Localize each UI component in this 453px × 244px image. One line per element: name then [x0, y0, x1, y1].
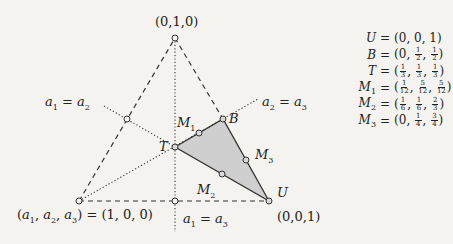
label-B: B [229, 112, 239, 125]
coordinates-legend: U=(0, 0, 1)B=(0, 12, 12)T=(13, 13, 13)M1… [338, 30, 451, 129]
legend-row-m1: M1=(112, 512, 512) [338, 80, 451, 97]
mid-left-point [124, 116, 130, 122]
mid-bottom-point [172, 198, 178, 204]
label-a2-eq-a3: a2 = a3 [262, 95, 307, 112]
legend-row-t: T=(13, 13, 13) [338, 63, 451, 80]
label-M2: M2 [197, 183, 215, 200]
label-a1-eq-a2: a1 = a2 [45, 95, 90, 112]
legend-coordinates: (0, 0, 1) [394, 31, 442, 45]
label-vertex-right: (0,0,1) [277, 210, 320, 223]
legend-coordinates: (0, 14, 34) [394, 113, 443, 128]
legend-coordinates: (0, 12, 12) [394, 47, 443, 62]
legend-coordinates: (16, 16, 23) [394, 97, 444, 112]
edge-right [175, 38, 223, 119]
legend-equals: = [380, 48, 390, 62]
legend-row-u: U=(0, 0, 1) [338, 30, 451, 47]
label-a1-eq-a3: a1 = a3 [183, 212, 228, 229]
point-T [172, 144, 178, 150]
label-M1: M1 [177, 116, 195, 133]
point-M3 [243, 157, 249, 163]
legend-equals: = [380, 31, 390, 45]
legend-point-name: M1 [338, 80, 376, 96]
label-M3: M3 [255, 148, 273, 165]
point-M1 [196, 130, 202, 136]
legend-row-m2: M2=(16, 16, 23) [338, 96, 451, 113]
legend-point-name: B [338, 48, 376, 62]
legend-point-name: T [338, 64, 376, 78]
legend-row-m3: M3=(0, 14, 34) [338, 113, 451, 130]
legend-coordinates: (13, 13, 13) [394, 64, 444, 79]
legend-equals: = [380, 114, 390, 128]
label-T: T [159, 140, 168, 153]
legend-row-b: B=(0, 12, 12) [338, 47, 451, 64]
label-vertex-left: (a1, a2, a3) = (1, 0, 0) [17, 208, 153, 225]
label-vertex-top: (0,1,0) [155, 15, 198, 28]
legend-point-name: M2 [338, 96, 376, 112]
point-U [266, 198, 272, 204]
label-U: U [277, 186, 288, 199]
point-M2 [219, 171, 225, 177]
legend-equals: = [380, 97, 390, 111]
vertex-left-point [76, 198, 82, 204]
legend-equals: = [380, 64, 390, 78]
vertex-top-point [172, 35, 178, 41]
legend-equals: = [380, 81, 390, 95]
legend-coordinates: (112, 512, 512) [394, 80, 451, 95]
point-B [220, 116, 226, 122]
legend-point-name: U [338, 31, 376, 45]
legend-point-name: M3 [338, 113, 376, 129]
